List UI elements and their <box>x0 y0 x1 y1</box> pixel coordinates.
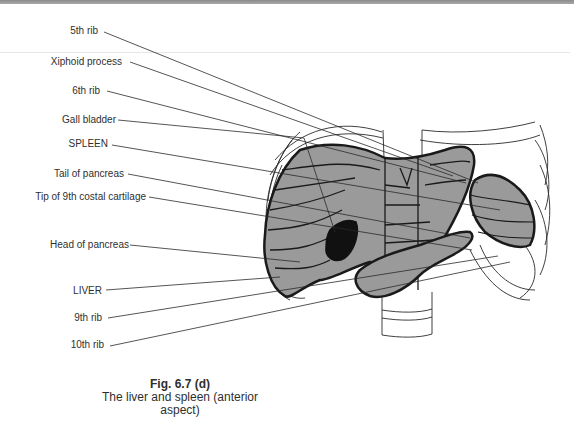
figure-caption: Fig. 6.7 (d) The liver and spleen (anter… <box>60 378 300 417</box>
caption-line-2: aspect) <box>60 404 300 417</box>
anatomy-diagram <box>0 0 574 438</box>
